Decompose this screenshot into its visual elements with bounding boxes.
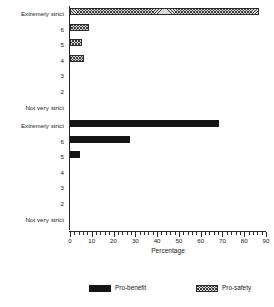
category-label-not-very-strict: Not very strict	[0, 217, 64, 223]
x-axis-minor-tick	[188, 232, 189, 235]
x-axis-minor-tick	[100, 232, 101, 235]
legend: Pro-benefit Pro-safety	[0, 282, 274, 298]
bar-benefit-extremely-strict	[70, 120, 219, 127]
category-label-3: 3	[0, 185, 64, 191]
x-axis-tick-label-50: 50	[171, 238, 187, 244]
x-axis-minor-tick	[109, 232, 110, 235]
x-axis-minor-tick	[253, 232, 254, 235]
x-axis-tick-label-60: 60	[193, 238, 209, 244]
x-axis-minor-tick	[166, 232, 167, 235]
x-axis-minor-tick	[105, 232, 106, 235]
x-axis-minor-tick	[196, 232, 197, 235]
legend-label-pro-benefit: Pro-benefit	[115, 285, 146, 291]
x-axis-tick-label-20: 20	[106, 238, 122, 244]
x-axis-minor-tick	[144, 232, 145, 235]
bar-safety-4	[70, 55, 84, 62]
category-label-6: 6	[0, 139, 64, 145]
x-axis-minor-tick	[122, 232, 123, 235]
pro-safety-panel: Extremely strict 6 5 4 3 2 Not very stri…	[0, 6, 274, 118]
category-label-4: 4	[0, 58, 64, 64]
x-axis-tick-label-80: 80	[236, 238, 252, 244]
x-axis-minor-tick	[262, 232, 263, 235]
legend-swatch-pro-benefit	[89, 285, 111, 292]
panel-bottom-y-axis-spine	[69, 118, 70, 230]
category-label-2: 2	[0, 201, 64, 207]
category-label-extremely-strict: Extremely strict	[0, 11, 64, 17]
x-axis-minor-tick	[170, 232, 171, 235]
x-axis-tick-label-70: 70	[214, 238, 230, 244]
x-axis-minor-tick	[127, 232, 128, 235]
x-axis-tick-label-30: 30	[127, 238, 143, 244]
panel-bottom-plot-area	[70, 118, 266, 230]
x-axis-minor-tick	[227, 232, 228, 235]
x-axis-minor-tick	[175, 232, 176, 235]
x-axis-minor-tick	[231, 232, 232, 235]
legend-label-pro-safety: Pro-safety	[222, 285, 251, 291]
legend-item-pro-benefit: Pro-benefit	[89, 282, 146, 294]
x-axis-tick-label-0: 0	[62, 238, 78, 244]
x-axis-minor-tick	[214, 232, 215, 235]
x-axis-minor-tick	[192, 232, 193, 235]
x-axis-title: Percentage	[70, 248, 266, 255]
bar-benefit-5	[70, 151, 80, 158]
x-axis-minor-tick	[148, 232, 149, 235]
panel-top-category-axis-labels: Extremely strict 6 5 4 3 2 Not very stri…	[0, 6, 64, 118]
category-label-5: 5	[0, 42, 64, 48]
x-axis-minor-tick	[131, 232, 132, 235]
x-axis-minor-tick	[257, 232, 258, 235]
category-label-3: 3	[0, 73, 64, 79]
category-label-2: 2	[0, 89, 64, 95]
bar-safety-extremely-strict	[70, 8, 259, 15]
legend-item-pro-safety: Pro-safety	[196, 282, 251, 294]
x-axis-minor-tick	[183, 232, 184, 235]
x-axis-minor-tick	[209, 232, 210, 235]
x-axis-tick-label-40: 40	[149, 238, 165, 244]
x-axis-minor-tick	[161, 232, 162, 235]
x-axis-minor-tick	[205, 232, 206, 235]
category-label-not-very-strict: Not very strict	[0, 105, 64, 111]
legend-swatch-pro-safety	[196, 285, 218, 292]
x-axis-minor-tick	[140, 232, 141, 235]
category-label-4: 4	[0, 170, 64, 176]
category-label-5: 5	[0, 154, 64, 160]
x-axis-minor-tick	[218, 232, 219, 235]
panel-top-plot-area	[70, 6, 266, 118]
x-axis-minor-tick	[118, 232, 119, 235]
x-axis-minor-tick	[153, 232, 154, 235]
x-axis-minor-tick	[240, 232, 241, 235]
x-axis-tick-label-90: 90	[258, 238, 274, 244]
x-axis-minor-tick	[74, 232, 75, 235]
x-axis: 0 10 20 30 40 50 60 70 80 90 Percentage	[70, 231, 266, 261]
bar-safety-6	[70, 24, 89, 31]
category-label-6: 6	[0, 27, 64, 33]
category-label-extremely-strict: Extremely strict	[0, 123, 64, 129]
bar-benefit-6	[70, 136, 130, 143]
pro-benefit-panel: Extremely strict 6 5 4 3 2 Not very stri…	[0, 118, 274, 230]
bar-chart-figure: Extremely strict 6 5 4 3 2 Not very stri…	[0, 0, 274, 307]
x-axis-minor-tick	[79, 232, 80, 235]
panel-top-y-axis-spine	[69, 6, 70, 118]
x-axis-tick-label-10: 10	[84, 238, 100, 244]
panel-bottom-category-axis-labels: Extremely strict 6 5 4 3 2 Not very stri…	[0, 118, 64, 230]
x-axis-minor-tick	[236, 232, 237, 235]
x-axis-minor-tick	[83, 232, 84, 235]
x-axis-minor-tick	[96, 232, 97, 235]
x-axis-minor-tick	[87, 232, 88, 235]
x-axis-minor-tick	[249, 232, 250, 235]
bar-safety-5	[70, 39, 82, 46]
